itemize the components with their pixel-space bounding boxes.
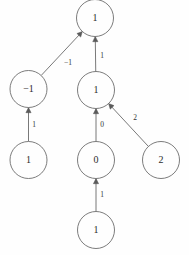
graph-edge — [109, 104, 149, 147]
graph-node[interactable]: 1 — [10, 142, 47, 179]
graph-edge — [93, 37, 98, 72]
graph-edge — [41, 32, 82, 76]
graph-diagram: 1−111021 −111021 — [0, 0, 189, 255]
arrowhead-icon — [93, 179, 98, 184]
edges-layer — [26, 32, 149, 212]
node-value-label: 1 — [94, 84, 99, 95]
node-value-label: 1 — [26, 154, 31, 165]
node-value-label: 1 — [94, 224, 99, 235]
arrowhead-icon — [93, 37, 98, 42]
node-value-label: 2 — [159, 154, 164, 165]
graph-node[interactable]: 1 — [77, 0, 114, 37]
graph-edge — [93, 109, 98, 142]
node-value-label: 0 — [94, 154, 99, 165]
edge-weight-label: −1 — [64, 58, 72, 67]
graph-edge — [26, 108, 31, 142]
edge-weight-label: 1 — [100, 51, 104, 60]
edge-weight-label: 1 — [32, 120, 36, 129]
graph-node[interactable]: −1 — [10, 71, 47, 108]
arrowhead-icon — [26, 108, 31, 113]
graph-node[interactable]: 2 — [143, 142, 180, 179]
arrowhead-icon — [93, 109, 98, 114]
edge-weight-label: 2 — [133, 113, 137, 122]
graph-node[interactable]: 1 — [78, 72, 115, 109]
graph-node[interactable]: 1 — [78, 212, 115, 249]
edge-weight-label: 1 — [100, 190, 104, 199]
edge-weight-label: 0 — [100, 120, 104, 129]
graph-canvas: 1−111021 −111021 — [0, 0, 189, 255]
node-value-label: 1 — [93, 12, 98, 23]
graph-edge — [93, 179, 98, 212]
graph-node[interactable]: 0 — [78, 142, 115, 179]
edge-labels-layer: −111021 — [32, 51, 137, 199]
node-value-label: −1 — [23, 83, 34, 94]
